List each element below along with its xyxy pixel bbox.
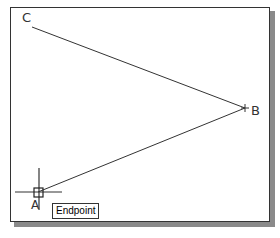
point-a-label: A xyxy=(31,199,39,211)
osnap-tooltip: Endpoint xyxy=(52,203,99,219)
point-b-marker xyxy=(241,104,249,112)
point-c-label: C xyxy=(22,11,31,24)
line-c-b[interactable] xyxy=(32,27,245,108)
point-b-label: B xyxy=(251,104,260,117)
line-b-a[interactable] xyxy=(38,108,245,192)
drawing-canvas xyxy=(0,0,280,238)
